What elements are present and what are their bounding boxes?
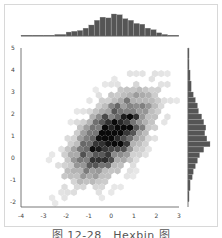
y-tick-labels: -2-1012345 [10, 44, 16, 205]
histogram-bar [123, 19, 128, 36]
histogram-bar [188, 125, 206, 130]
hexbin-cell [118, 183, 124, 190]
histogram-bar [188, 109, 198, 114]
histogram-bar [128, 20, 133, 36]
histogram-bar [134, 23, 139, 36]
histogram-bar [188, 164, 195, 169]
figure-caption: 图 12-28 Hexbin 图 [0, 226, 222, 238]
histogram-bar [117, 15, 122, 36]
histogram-bar [94, 20, 99, 36]
y-tick-label: 4 [11, 66, 15, 73]
hexbin-cell [164, 81, 170, 88]
histogram-bar [72, 31, 77, 36]
hexbin-cell [167, 97, 173, 104]
histogram-bar [111, 14, 116, 36]
histogram-bar [188, 114, 202, 119]
histogram-bar [100, 17, 105, 36]
x-tick-label: 0 [109, 212, 113, 219]
histogram-bar [188, 81, 191, 92]
histogram-bar [145, 28, 150, 36]
histogram-bar [188, 169, 193, 174]
histogram-bar [140, 24, 145, 36]
y-tick-label: 0 [11, 154, 15, 161]
y-tick-label: 3 [11, 88, 15, 95]
histogram-bar [106, 18, 111, 36]
histogram-bar [188, 158, 197, 163]
hexbin-cell [152, 135, 158, 142]
histogram-bar [156, 33, 161, 36]
x-tick-label: -4 [18, 212, 24, 219]
histogram-bar [151, 30, 156, 36]
histogram-bar [188, 131, 205, 136]
histogram-bar [66, 32, 71, 36]
hexbin-jointplot: -4-3-2-10123 -2-1012345 [0, 0, 222, 238]
hexbin-cell [80, 108, 86, 115]
hexbin-cell [86, 97, 92, 104]
histogram-bar [188, 103, 197, 108]
hexbin-cell [174, 97, 180, 104]
histogram-bar [188, 175, 192, 180]
histogram-bar [188, 92, 193, 97]
y-tick-label: 2 [11, 110, 15, 117]
hexbin-cell [74, 108, 80, 115]
y-tick-label: -1 [10, 176, 16, 183]
y-tick-label: 5 [11, 44, 15, 51]
histogram-bar [188, 153, 200, 158]
x-tick-labels: -4-3-2-10123 [18, 212, 181, 219]
histogram-bar [89, 25, 94, 36]
x-tick-label: 3 [177, 212, 181, 219]
marginal-x-histogram [21, 14, 179, 36]
marginal-y-histogram [188, 48, 210, 202]
histogram-bar [77, 31, 82, 37]
histogram-bar [83, 28, 88, 36]
x-tick-label: 2 [155, 212, 159, 219]
histogram-bar [188, 98, 195, 103]
hexbin-cell [55, 162, 61, 169]
hexbin-cell [133, 70, 139, 77]
hexbin-cell [68, 119, 74, 126]
hexbin-cell [164, 70, 170, 77]
y-tick-label: -2 [10, 198, 16, 205]
x-tick-label: 1 [132, 212, 136, 219]
hexbin-cell [102, 81, 108, 88]
histogram-bar [188, 120, 204, 125]
hexbin-cell [139, 70, 145, 77]
x-tick-label: -3 [41, 212, 47, 219]
hexbin-plot-area [46, 70, 180, 207]
x-tick-label: -1 [86, 212, 92, 219]
x-tick-label: -2 [63, 212, 69, 219]
histogram-bar [188, 136, 207, 141]
histogram-bar [188, 142, 210, 147]
y-tick-label: 1 [11, 132, 15, 139]
hexbin-cell [127, 70, 133, 77]
hexbin-cell [158, 70, 164, 77]
histogram-bar [188, 147, 204, 152]
